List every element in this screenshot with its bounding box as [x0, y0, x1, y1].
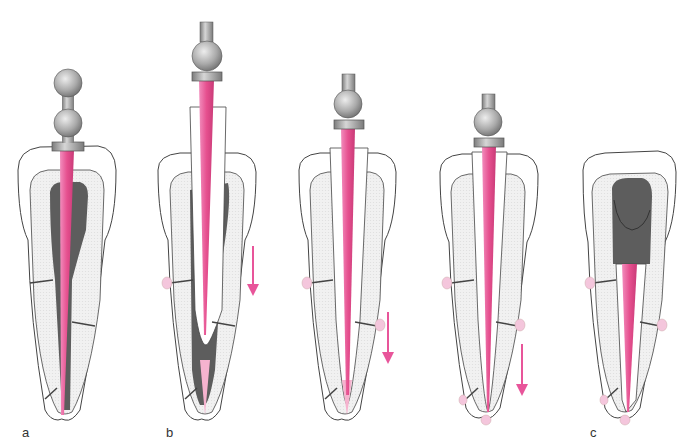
lateral-canal-bulge: [162, 277, 172, 289]
panel-label-c: c: [590, 425, 597, 440]
lateral-canal-bulge: [585, 277, 595, 289]
lateral-canal-bulge: [657, 319, 667, 331]
handle-top: [200, 22, 213, 42]
handle-stop: [334, 120, 364, 129]
tooth-panel-b3: [440, 94, 538, 425]
handle-ball: [192, 41, 222, 71]
lateral-canal-bulge: [459, 395, 467, 405]
downward-arrow-icon: [516, 344, 528, 396]
handle-ball: [54, 109, 82, 137]
handle-ball: [334, 90, 362, 118]
downward-arrow-icon: [382, 312, 394, 364]
lateral-canal-bulge: [302, 277, 312, 289]
apical-bulge: [620, 415, 630, 425]
handle-stop: [474, 138, 504, 147]
lateral-canal-bulge: [600, 395, 608, 405]
lateral-canal-bulge: [515, 319, 525, 331]
handle-ball: [54, 69, 82, 97]
lateral-canal-bulge: [375, 319, 385, 331]
tooth-panel-a: [18, 69, 116, 420]
handle-ball: [474, 108, 502, 136]
lateral-canal-bulge: [442, 277, 452, 289]
panel-label-b: b: [166, 425, 173, 440]
apical-bulge: [481, 415, 491, 425]
handle-stop: [52, 142, 84, 151]
panel-label-a: a: [22, 425, 29, 440]
tooth-panel-b2: [299, 74, 396, 420]
handle-stop: [192, 72, 222, 81]
tooth-panel-b1: [158, 22, 259, 420]
diagram-canvas: [0, 0, 689, 445]
handle-top: [342, 74, 355, 92]
obturated-chamber: [612, 178, 652, 264]
downward-arrow-icon: [247, 246, 259, 296]
tooth-panel-c: [583, 151, 676, 425]
